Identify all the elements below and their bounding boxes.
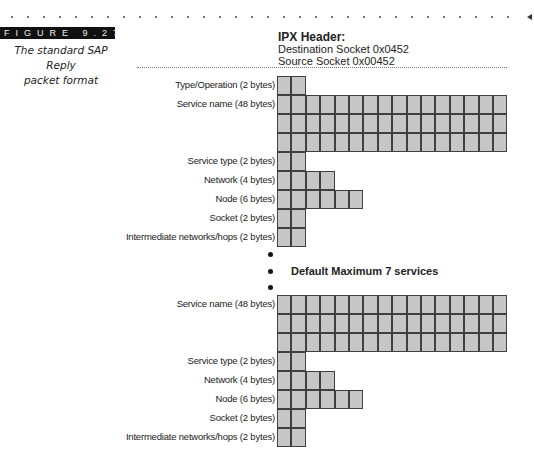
byte-cell [363, 333, 377, 352]
byte-cell [464, 333, 478, 352]
byte-cell [306, 95, 320, 114]
byte-cell [435, 114, 449, 133]
dotted-top-rule [0, 14, 534, 20]
byte-cell [349, 314, 363, 333]
byte-cell [291, 133, 305, 152]
byte-cell [335, 95, 349, 114]
rule-dot [411, 16, 413, 18]
byte-cell [378, 95, 392, 114]
byte-cell [421, 95, 435, 114]
bullet-dot [268, 269, 273, 274]
rule-dot [235, 16, 237, 18]
byte-cell [464, 295, 478, 314]
rule-dot [427, 16, 429, 18]
field-label: Socket (2 bytes) [210, 412, 275, 423]
field-label: Intermediate networks/hops (2 bytes) [126, 431, 275, 442]
byte-cell [450, 314, 464, 333]
byte-cell [349, 295, 363, 314]
byte-cell [335, 295, 349, 314]
byte-cell [277, 228, 291, 247]
field-label: Node (6 bytes) [215, 393, 275, 404]
byte-cell [450, 95, 464, 114]
rule-dot [219, 16, 221, 18]
byte-cell [306, 295, 320, 314]
byte-cell [306, 314, 320, 333]
byte-cell [435, 133, 449, 152]
byte-cell [277, 390, 291, 409]
byte-cell [435, 333, 449, 352]
byte-cell [407, 295, 421, 314]
byte-cell [291, 114, 305, 133]
byte-cell [277, 333, 291, 352]
default-max-services: Default Maximum 7 services [291, 265, 438, 277]
byte-cell [363, 314, 377, 333]
byte-cell [320, 295, 334, 314]
rule-dot [59, 16, 61, 18]
byte-cell [335, 133, 349, 152]
byte-cell [392, 314, 406, 333]
byte-cell [407, 314, 421, 333]
byte-cell [335, 390, 349, 409]
byte-cell [306, 114, 320, 133]
byte-cell [291, 428, 305, 447]
byte-cell [493, 114, 507, 133]
byte-cell [464, 314, 478, 333]
byte-cell [392, 114, 406, 133]
byte-cell [306, 171, 320, 190]
byte-cell [407, 95, 421, 114]
byte-cell [407, 133, 421, 152]
byte-cell [320, 190, 334, 209]
byte-cell [277, 152, 291, 171]
byte-cell [479, 133, 493, 152]
figure-caption: The standard SAP Reply packet format [0, 43, 122, 88]
field-label: Node (6 bytes) [215, 193, 275, 204]
byte-cell [450, 333, 464, 352]
byte-cell [335, 190, 349, 209]
rule-dot [459, 16, 461, 18]
rule-dot [267, 16, 269, 18]
rule-dot [203, 16, 205, 18]
field-label: Service name (48 bytes) [177, 298, 275, 309]
rule-dot [475, 16, 477, 18]
byte-cell [306, 190, 320, 209]
byte-cell [306, 333, 320, 352]
rule-dot [315, 16, 317, 18]
byte-cell [464, 95, 478, 114]
rule-dot [491, 16, 493, 18]
byte-cell [479, 333, 493, 352]
byte-cell [291, 228, 305, 247]
byte-cell [493, 95, 507, 114]
byte-cell [320, 390, 334, 409]
byte-cell [378, 295, 392, 314]
rule-dot [155, 16, 157, 18]
byte-cell [378, 333, 392, 352]
rule-dot [443, 16, 445, 18]
rule-dot [43, 16, 45, 18]
byte-cell [392, 133, 406, 152]
rule-dot [75, 16, 77, 18]
byte-cell [349, 390, 363, 409]
rule-dot [507, 16, 509, 18]
byte-cell [291, 390, 305, 409]
byte-cell [277, 190, 291, 209]
source-socket: Source Socket 0x00452 [278, 55, 409, 67]
ipx-header: IPX Header: Destination Socket 0x0452 So… [278, 31, 409, 67]
byte-cell [291, 333, 305, 352]
byte-cell [349, 95, 363, 114]
rule-dot [331, 16, 333, 18]
byte-cell [335, 114, 349, 133]
byte-cell [277, 371, 291, 390]
ipx-header-title: IPX Header: [278, 31, 409, 43]
field-label: Network (4 bytes) [204, 374, 275, 385]
byte-cell [392, 95, 406, 114]
byte-cell [378, 314, 392, 333]
field-label: Type/Operation (2 bytes) [175, 79, 275, 90]
byte-cell [291, 171, 305, 190]
rule-dot [395, 16, 397, 18]
rule-dot [283, 16, 285, 18]
caption-line-2: packet format [0, 73, 122, 88]
destination-socket: Destination Socket 0x0452 [278, 43, 409, 55]
rule-dot [363, 16, 365, 18]
byte-cell [421, 295, 435, 314]
byte-cell [493, 133, 507, 152]
